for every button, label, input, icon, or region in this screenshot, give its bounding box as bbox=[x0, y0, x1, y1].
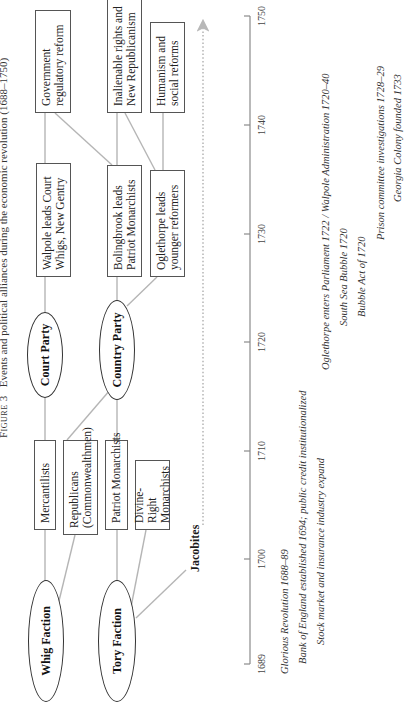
oglethorpe-label: Oglethorpe leads younger reformers bbox=[155, 177, 181, 270]
event-glorious-revolution: Glorious Revolution 1688–89 bbox=[279, 549, 290, 674]
tick-1740: 1740 bbox=[256, 115, 267, 135]
tory-faction-label: Tory Faction bbox=[110, 608, 125, 674]
event-bank-of-england: Bank of England established 1694; public… bbox=[297, 391, 308, 664]
tick-1689: 1689 bbox=[256, 654, 267, 674]
divine-right-box: Divine-Right Monarchists bbox=[135, 460, 170, 530]
event-bubble-act: Bubble Act of 1720 bbox=[356, 236, 367, 317]
country-party-label: Country Party bbox=[110, 313, 125, 388]
humanism-box: Humanism and social reforms bbox=[150, 22, 185, 113]
walpole-label: Walpole leads Court Whigs, New Gentry bbox=[41, 170, 67, 270]
government-reform-label: Government regulatory reform bbox=[40, 17, 66, 106]
patriot-monarchists-label: Patriot Monarchists bbox=[110, 433, 123, 523]
government-reform-box: Government regulatory reform bbox=[35, 10, 71, 113]
country-party-node: Country Party bbox=[99, 300, 135, 400]
patriot-monarchists-box: Patriot Monarchists bbox=[105, 440, 128, 530]
jacobites-label: Jacobites bbox=[188, 525, 203, 572]
court-party-node: Court Party bbox=[27, 312, 63, 398]
tick-1720: 1720 bbox=[256, 332, 267, 352]
republicans-box: Republicans (Commonwealthmen) bbox=[63, 440, 98, 535]
mercantilists-label: Mercantilists bbox=[39, 463, 52, 523]
event-prison-committee: Prison committee investigations 1728–29 bbox=[375, 66, 386, 240]
tory-faction-node: Tory Faction bbox=[98, 580, 136, 702]
bolingbroke-box: Bolingbrook leads Patriot Monarchists bbox=[107, 165, 142, 277]
court-party-label: Court Party bbox=[38, 324, 53, 386]
event-oglethorpe-parliament: Oglethorpe enters Parliament 1722 / Walp… bbox=[320, 73, 331, 370]
tick-1750: 1750 bbox=[256, 6, 267, 26]
inalienable-rights-box: Inalienable rights and New Republicanism bbox=[107, 0, 142, 113]
whig-faction-node: Whig Faction bbox=[28, 580, 64, 702]
oglethorpe-box: Oglethorpe leads younger reformers bbox=[150, 170, 185, 277]
walpole-box: Walpole leads Court Whigs, New Gentry bbox=[36, 163, 71, 277]
divine-right-label: Divine-Right Monarchists bbox=[133, 466, 172, 523]
humanism-label: Humanism and social reforms bbox=[155, 29, 181, 106]
event-south-sea-bubble: South Sea Bubble 1720 bbox=[338, 228, 349, 326]
tick-1730: 1730 bbox=[256, 224, 267, 244]
event-stock-market: Stock market and insurance industry expa… bbox=[315, 458, 326, 645]
tick-1700: 1700 bbox=[256, 549, 267, 569]
republicans-label: Republicans (Commonwealthmen) bbox=[68, 427, 94, 528]
event-georgia-colony: Georgia Colony founded 1733 bbox=[392, 74, 403, 202]
inalienable-rights-label: Inalienable rights and New Republicanism bbox=[112, 0, 138, 106]
whig-faction-label: Whig Faction bbox=[39, 606, 54, 676]
bolingbroke-label: Bolingbrook leads Patriot Monarchists bbox=[112, 172, 138, 270]
tick-1710: 1710 bbox=[256, 441, 267, 461]
mercantilists-box: Mercantilists bbox=[34, 440, 56, 530]
